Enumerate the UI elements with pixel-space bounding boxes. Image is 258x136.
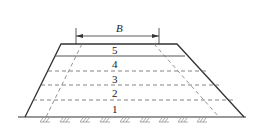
embankment-diagram: B 5 4 3 2 1 bbox=[0, 0, 258, 136]
diagram-canvas: B 5 4 3 2 1 bbox=[0, 0, 258, 136]
layer-label-3: 3 bbox=[112, 73, 118, 85]
layer-label-5: 5 bbox=[112, 44, 118, 56]
layer-label-1: 1 bbox=[112, 103, 118, 115]
ground-hatching bbox=[40, 118, 207, 122]
layer-label-4: 4 bbox=[112, 58, 118, 70]
embankment-outline bbox=[25, 44, 244, 117]
arrow-right-icon bbox=[152, 34, 159, 38]
left-inner-slope bbox=[46, 44, 82, 117]
layer-label-2: 2 bbox=[112, 87, 118, 99]
arrow-left-icon bbox=[76, 34, 83, 38]
dimension-label: B bbox=[116, 22, 123, 34]
